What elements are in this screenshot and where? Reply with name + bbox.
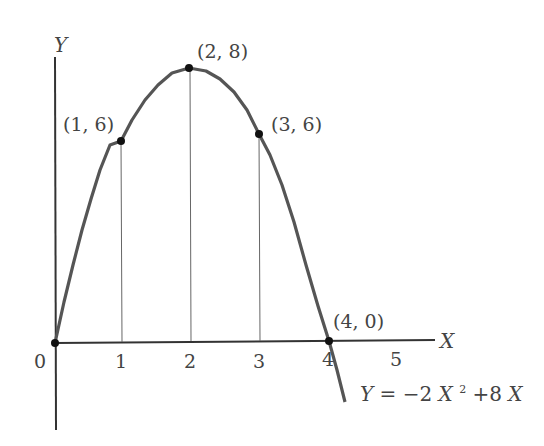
y-axis — [55, 57, 56, 430]
guide-line-x2 — [190, 68, 191, 341]
x-axis — [55, 340, 435, 343]
x-tick-3: 3 — [253, 350, 265, 372]
origin-label: 0 — [34, 350, 46, 372]
x-tick-2: 2 — [184, 350, 196, 372]
equation-label: Y = −2 X 2 +8 X — [360, 374, 523, 406]
eq-x2: X — [506, 382, 523, 406]
eq-rest: +8 — [473, 382, 502, 406]
guide-line-x3 — [259, 134, 260, 341]
eq-mid: = −2 — [380, 382, 433, 406]
eq-sup: 2 — [459, 383, 466, 396]
x-tick-4: 4 — [322, 348, 334, 370]
guide-line-x1 — [121, 141, 122, 342]
point-origin — [51, 339, 59, 347]
eq-x: X — [437, 382, 454, 406]
point-1-6 — [117, 137, 125, 145]
point-3-6 — [255, 130, 263, 138]
point-2-8 — [185, 64, 193, 72]
point-label-3-6: (3, 6) — [271, 113, 322, 135]
point-label-2-8: (2, 8) — [197, 40, 248, 62]
x-tick-5: 5 — [390, 348, 402, 370]
point-label-1-6: (1, 6) — [63, 113, 114, 135]
y-axis-label: Y — [54, 33, 69, 57]
x-axis-label: X — [438, 329, 455, 353]
parabola-diagram: Y X 0 1 2 3 4 5 (1, 6) (2, 8) (3, 6) (4,… — [0, 0, 544, 446]
point-4-0 — [325, 337, 333, 345]
x-tick-1: 1 — [115, 350, 127, 372]
eq-lhs: Y — [360, 382, 375, 406]
point-label-4-0: (4, 0) — [333, 310, 384, 332]
